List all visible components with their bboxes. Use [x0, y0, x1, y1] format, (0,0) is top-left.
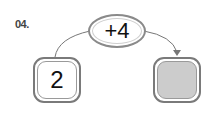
start-value: 2 [50, 66, 63, 94]
answer-box[interactable] [153, 57, 201, 103]
operator-label: +4 [104, 18, 129, 44]
left-connector-line [55, 31, 90, 57]
operator-oval: +4 [88, 14, 146, 48]
arrowhead-icon [173, 50, 181, 56]
start-box: 2 [33, 57, 81, 103]
right-connector-line [144, 31, 177, 52]
